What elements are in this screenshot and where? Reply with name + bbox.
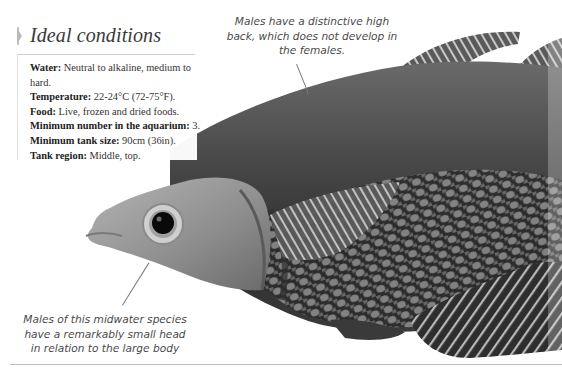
condition-label: Water: [30, 62, 61, 73]
condition-label: Tank region: [30, 150, 87, 161]
condition-value: 90cm (36in). [119, 135, 175, 146]
page-bottom-rule [10, 364, 562, 365]
section-marker-arrow-icon [17, 28, 22, 44]
condition-label: Minimum tank size: [30, 135, 119, 146]
condition-label: Food: [30, 106, 56, 117]
section-side-rule [17, 55, 18, 160]
condition-label: Temperature: [30, 91, 91, 102]
condition-value: Middle, top. [87, 150, 141, 161]
condition-minimum-number: Minimum number in the aquarium: 3. [30, 119, 210, 134]
condition-water: Water: Neutral to alkaline, medium to ha… [30, 61, 210, 90]
conditions-list: Water: Neutral to alkaline, medium to ha… [30, 61, 210, 163]
condition-temperature: Temperature: 22-24°C (72-75°F). [30, 90, 210, 105]
condition-value: 3. [190, 120, 200, 131]
condition-tank-size: Minimum tank size: 90cm (36in). [30, 134, 210, 149]
condition-tank-region: Tank region: Middle, top. [30, 149, 210, 164]
section-divider [17, 54, 195, 55]
book-page: Ideal conditions Water: Neutral to alkal… [0, 0, 562, 376]
callout-small-head: Males of this midwater species have a re… [20, 312, 190, 356]
condition-value: 22-24°C (72-75°F). [91, 91, 175, 102]
condition-food: Food: Live, frozen and dried foods. [30, 105, 210, 120]
section-title: Ideal conditions [30, 24, 161, 47]
condition-label: Minimum number in the aquarium: [30, 120, 190, 131]
callout-high-back: Males have a distinctive high back, whic… [222, 14, 402, 58]
condition-value: Live, frozen and dried foods. [56, 106, 179, 117]
